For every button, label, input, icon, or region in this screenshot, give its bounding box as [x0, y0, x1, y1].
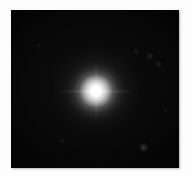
sky-background: [11, 10, 179, 168]
sky-field-frame: [11, 10, 179, 168]
image-viewer: [0, 0, 192, 176]
